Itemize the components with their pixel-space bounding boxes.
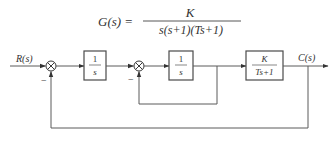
input-signal-label: R(s) xyxy=(15,53,33,65)
integrator-block-1: 1 s xyxy=(84,51,106,80)
integrator-block-2: 1 s xyxy=(169,51,193,80)
formula-numerator: K xyxy=(185,5,196,20)
transfer-function-formula: G(s) = K s(s+1)(Ts+1) xyxy=(98,5,241,37)
formula-denominator: s(s+1)(Ts+1) xyxy=(159,23,223,37)
block1-denominator: s xyxy=(93,67,97,77)
block-diagram: G(s) = K s(s+1)(Ts+1) R(s) − 1 s − 1 s xyxy=(0,0,335,141)
summing-junction-1 xyxy=(46,61,56,71)
summing-junction-2 xyxy=(134,61,144,71)
sum-1-minus-sign: − xyxy=(41,75,47,86)
block2-numerator: 1 xyxy=(179,54,184,64)
block3-numerator: K xyxy=(260,54,268,64)
sum-2-minus-sign: − xyxy=(128,74,134,85)
output-signal-label: C(s) xyxy=(298,52,316,64)
block2-denominator: s xyxy=(179,67,183,77)
plant-block: K Ts+1 xyxy=(246,51,283,80)
block1-numerator: 1 xyxy=(93,54,98,64)
formula-lhs: G(s) = xyxy=(98,14,133,29)
block3-denominator: Ts+1 xyxy=(255,67,273,77)
